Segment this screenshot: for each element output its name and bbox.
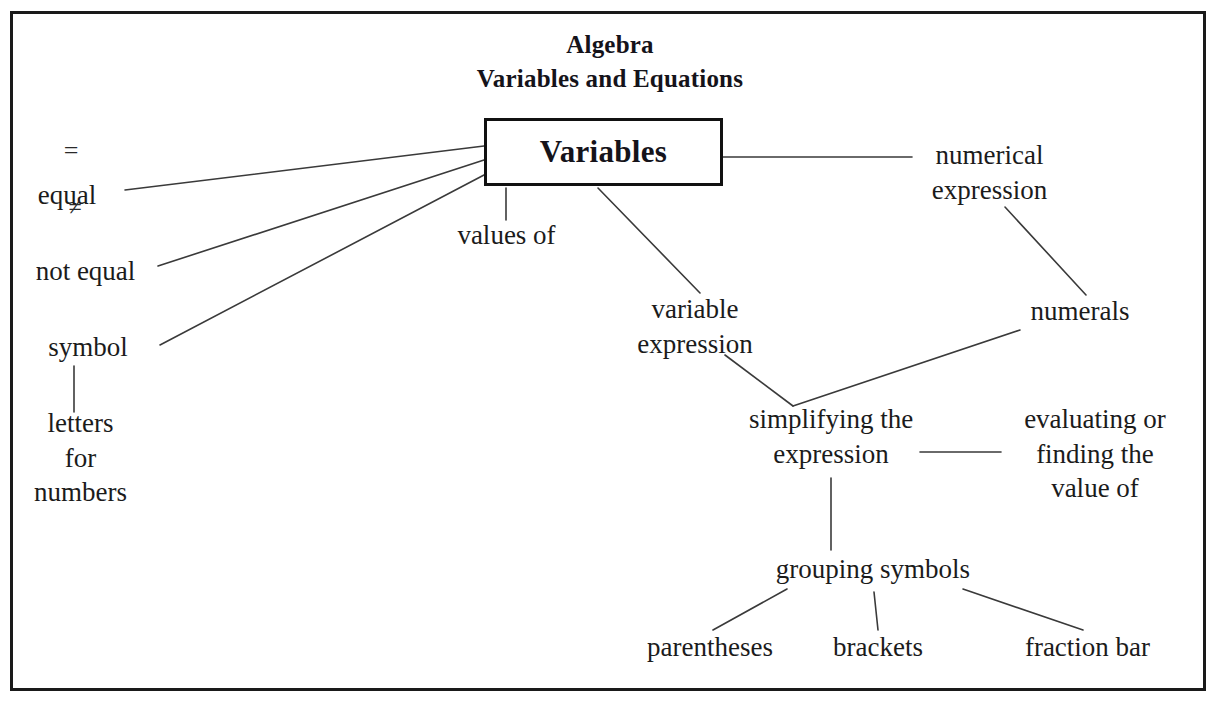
edge-variables-symbol xyxy=(160,175,484,345)
node-symbol[interactable]: symbol xyxy=(12,330,164,365)
edge-grouping-brackets xyxy=(874,592,878,630)
node-grouping-symbols[interactable]: grouping symbols xyxy=(757,552,989,587)
node-fraction-bar[interactable]: fraction bar xyxy=(1000,630,1175,665)
edge-numerals-simplifying xyxy=(793,330,1020,406)
node-variable-expression[interactable]: variable expression xyxy=(600,292,790,361)
node-variables[interactable]: Variables xyxy=(484,118,723,186)
node-evaluating-or-finding-value[interactable]: evaluating or finding the value of xyxy=(995,402,1195,506)
concept-map-page: Algebra Variables and Equations Variable… xyxy=(0,0,1220,709)
node-numerals[interactable]: numerals xyxy=(995,294,1165,329)
equals-sign-icon: = xyxy=(46,136,96,166)
edge-numerical-expression-numerals xyxy=(1005,207,1086,295)
node-parentheses[interactable]: parentheses xyxy=(620,630,800,665)
node-simplifying-the-expression[interactable]: simplifying the expression xyxy=(716,402,946,471)
node-brackets[interactable]: brackets xyxy=(808,630,948,665)
edge-variables-variable-expression xyxy=(598,188,700,293)
node-not-equal[interactable]: not equal xyxy=(8,254,163,289)
node-letters-for-numbers[interactable]: letters for numbers xyxy=(8,406,153,510)
node-numerical-expression[interactable]: numerical expression xyxy=(892,138,1087,207)
edge-grouping-fraction-bar xyxy=(963,589,1083,630)
not-equals-sign-icon: ≠ xyxy=(52,194,98,221)
node-values-of[interactable]: values of xyxy=(434,218,579,253)
node-variables-label: Variables xyxy=(540,134,667,170)
edge-variable-expression-simplifying xyxy=(725,355,793,406)
edge-grouping-parentheses xyxy=(713,589,787,630)
edge-variables-equal xyxy=(125,146,484,190)
